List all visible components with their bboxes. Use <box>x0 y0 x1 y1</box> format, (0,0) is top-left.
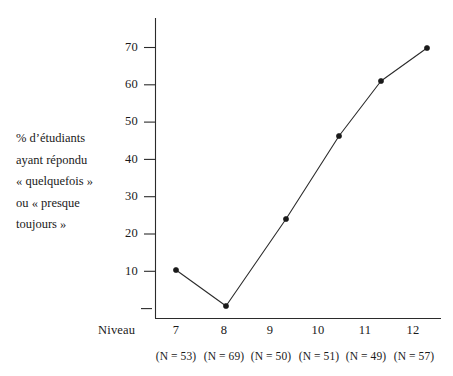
x-tick-label-9: 9 <box>250 323 290 338</box>
data-points <box>173 45 429 308</box>
y-tick-label-70: 70 <box>108 40 138 55</box>
data-point <box>336 133 341 138</box>
y-axis-label: % d’étudiants ayant répondu « quelquefoi… <box>16 128 128 236</box>
y-axis-label-line-2: ayant répondu <box>16 150 128 172</box>
x-tick-label-8: 8 <box>204 323 244 338</box>
line-chart: 70 60 50 40 30 20 10 % d’étudiants ayant… <box>0 0 453 376</box>
y-axis-label-line-3: « quelquefois » <box>16 171 128 193</box>
x-tick-label-12: 12 <box>393 323 433 338</box>
group-size-label-12: (N = 57) <box>382 350 446 362</box>
x-tick-label-7: 7 <box>156 323 196 338</box>
data-point <box>283 216 288 221</box>
x-tick-label-10: 10 <box>298 323 338 338</box>
y-axis-label-line-1: % d’étudiants <box>16 128 128 150</box>
data-point <box>223 303 228 308</box>
y-tick-label-60: 60 <box>108 77 138 92</box>
data-line <box>176 48 427 306</box>
data-point <box>424 45 429 50</box>
data-point <box>378 78 383 83</box>
x-axis-label: Niveau <box>98 323 135 338</box>
y-axis-label-line-5: toujours » <box>16 214 128 236</box>
y-axis-label-line-4: ou « presque <box>16 193 128 215</box>
y-tick-label-50: 50 <box>108 114 138 129</box>
y-tick-marks <box>141 48 155 309</box>
y-tick-label-10: 10 <box>108 264 138 279</box>
x-tick-label-11: 11 <box>345 323 385 338</box>
data-point <box>173 267 178 272</box>
